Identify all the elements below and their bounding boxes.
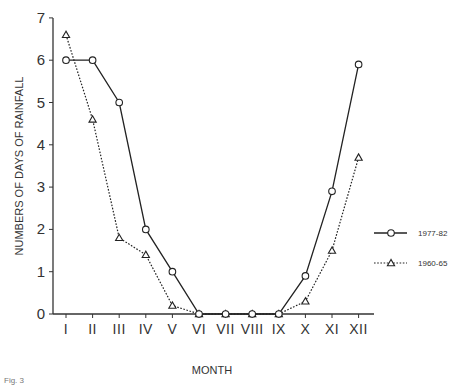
x-tick-label: XI (325, 321, 339, 337)
circle-marker (116, 99, 123, 106)
triangle-marker (142, 251, 149, 257)
triangle-marker (355, 154, 362, 160)
y-tick-label: 4 (37, 136, 45, 153)
circle-marker (355, 61, 362, 68)
y-tick-label: 6 (37, 51, 45, 68)
y-tick-label: 1 (37, 263, 45, 280)
circle-marker (89, 57, 96, 64)
circle-marker (249, 311, 256, 318)
x-tick-label: VII (216, 321, 235, 337)
x-tick-label: III (113, 321, 126, 337)
triangle-marker (328, 247, 335, 253)
series-1960-65 (62, 31, 362, 316)
circle-marker (388, 230, 395, 237)
x-tick-label: XII (349, 321, 368, 337)
x-tick-label: I (64, 321, 68, 337)
series-line (66, 60, 359, 314)
y-ticks: 01234567 (37, 9, 53, 322)
x-tick-label: VI (192, 321, 206, 337)
circle-marker (329, 188, 336, 195)
x-tick-label: IX (272, 321, 286, 337)
circle-marker (276, 311, 283, 318)
circle-marker (222, 311, 229, 318)
y-tick-label: 0 (37, 305, 45, 322)
circle-marker (196, 311, 203, 318)
y-axis-title: NUMBERS OF DAYS OF RAINFALL (13, 77, 25, 256)
x-tick-label: VIII (241, 321, 264, 337)
circle-marker (302, 273, 309, 280)
x-ticks: IIIIIIIVVVIVIIVIIIIXXXIXII (64, 314, 368, 337)
y-tick-label: 2 (37, 220, 45, 237)
circle-marker (63, 57, 70, 64)
x-tick-label: II (88, 321, 97, 337)
axes (53, 18, 374, 314)
series-line (66, 35, 359, 314)
triangle-marker (62, 31, 69, 37)
y-tick-label: 7 (37, 9, 45, 26)
triangle-marker (302, 298, 309, 304)
x-axis-title: MONTH (192, 364, 232, 376)
y-tick-label: 5 (37, 94, 45, 111)
legend: 1977-821960-65 (374, 229, 448, 268)
legend-label: 1960-65 (418, 259, 448, 268)
circle-marker (143, 226, 150, 233)
triangle-marker (116, 234, 123, 240)
circle-marker (169, 268, 176, 275)
legend-label: 1977-82 (418, 229, 448, 238)
y-tick-label: 3 (37, 178, 45, 195)
x-tick-label: IV (139, 321, 153, 337)
triangle-marker (169, 302, 176, 308)
figure-caption: Fig. 3 (4, 376, 24, 385)
series-group (62, 31, 362, 317)
x-tick-label: X (300, 321, 310, 337)
triangle-marker (89, 116, 96, 122)
x-tick-label: V (167, 321, 177, 337)
